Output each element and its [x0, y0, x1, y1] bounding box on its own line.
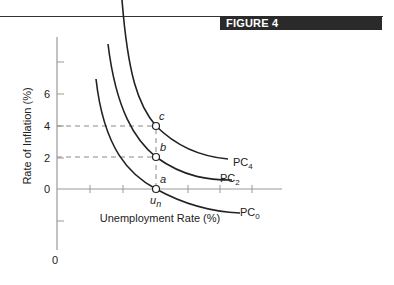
- y-axis-label: Rate of Inflation (%): [21, 71, 33, 201]
- curve-pc4: [122, 0, 228, 159]
- point-label-b: b: [160, 141, 166, 153]
- point-c: [153, 123, 160, 130]
- y-axis-ticks: [57, 62, 64, 221]
- y-tick-label: 2: [44, 152, 50, 164]
- phillips-curve-chart: 6 4 2 0 0 c b a un PC4 PC2 PC0 Unemploym…: [0, 0, 394, 285]
- x-axis-label: Unemployment Rate (%): [100, 212, 220, 224]
- point-b: [153, 154, 160, 161]
- natural-rate-label: un: [150, 194, 161, 209]
- curve-label-pc4: PC4: [233, 156, 253, 171]
- point-label-c: c: [159, 110, 165, 122]
- origin-label: 0: [52, 254, 58, 266]
- curve-label-pc2: PC2: [220, 172, 240, 187]
- curve-pc0: [96, 79, 240, 213]
- curve-label-pc0: PC0: [240, 206, 260, 221]
- y-tick-label: 0: [44, 183, 50, 195]
- dashed-guides: [57, 126, 156, 186]
- y-tick-label: 6: [44, 88, 50, 100]
- curve-pc2: [108, 44, 232, 180]
- point-label-a: a: [160, 173, 166, 185]
- y-tick-label: 4: [44, 120, 50, 132]
- point-a: [153, 186, 160, 193]
